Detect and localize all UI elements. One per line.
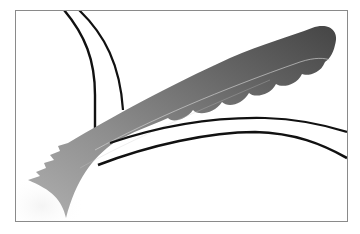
illustration-canvas: Abstract grayscale illustration of a fea… xyxy=(0,0,360,234)
illustration-svg xyxy=(0,0,360,234)
